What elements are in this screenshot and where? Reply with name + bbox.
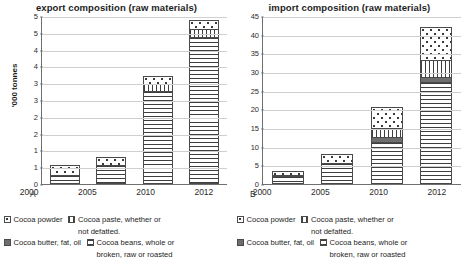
bar-segment-powder-2010 bbox=[144, 77, 172, 84]
legend-swatch-paste-icon bbox=[301, 216, 308, 223]
stacked-bar-2010 bbox=[371, 107, 403, 184]
x-tick-label-2005: 2005 bbox=[65, 187, 109, 201]
stacked-bar-2005 bbox=[321, 154, 353, 184]
legend-swatch-beans-icon bbox=[320, 239, 327, 246]
legend-swatch-powder-icon bbox=[4, 216, 11, 223]
y-tick-label: 4 bbox=[34, 47, 38, 55]
gridline bbox=[42, 151, 227, 152]
legend-row: Cocoa butter, fat, oilCocoa beans, whole… bbox=[233, 237, 466, 260]
y-tick-label: 5 bbox=[255, 163, 259, 171]
bar-segment-powder-2005 bbox=[322, 155, 352, 163]
legend-item-powder-export: Cocoa powder bbox=[4, 214, 62, 226]
gridline bbox=[42, 118, 227, 119]
legend-swatch-butter-icon bbox=[4, 239, 11, 246]
y-axis-ticks-export: 01122334455 bbox=[16, 17, 40, 185]
legend-item-paste-export: Cocoa paste, whether or not defatted. bbox=[68, 214, 170, 237]
gridline bbox=[42, 17, 227, 18]
y-tick-label: 5 bbox=[34, 13, 38, 21]
bar-segment-paste-2012 bbox=[421, 60, 451, 77]
legend-item-beans-import: Cocoa beans, whole or broken, raw or roa… bbox=[320, 237, 422, 260]
bar-segment-powder-2005 bbox=[97, 158, 125, 165]
gridline bbox=[263, 148, 461, 149]
gridline bbox=[42, 84, 227, 85]
plot-frame-import bbox=[262, 17, 461, 185]
y-tick-label: 1 bbox=[34, 164, 38, 172]
legend-swatch-butter-icon bbox=[237, 239, 244, 246]
bar-column-2012 bbox=[420, 17, 452, 184]
gridline bbox=[263, 73, 461, 74]
legend-label: Cocoa powder bbox=[14, 214, 63, 226]
gridline bbox=[263, 17, 461, 18]
legend-item-paste-import: Cocoa paste, whether or not defatted. bbox=[301, 214, 403, 237]
x-tick-label-2005: 2005 bbox=[298, 187, 342, 201]
panel-letter-b: B bbox=[250, 189, 256, 199]
legend-item-powder-import: Cocoa powder bbox=[237, 214, 295, 226]
legend-label: Cocoa beans, whole or broken, raw or roa… bbox=[97, 237, 189, 260]
x-tick-label-2010: 2010 bbox=[124, 187, 168, 201]
legend-label: Cocoa butter, fat, oil bbox=[247, 237, 315, 249]
y-tick-label: 3 bbox=[34, 80, 38, 88]
legend-label: Cocoa beans, whole or broken, raw or roa… bbox=[330, 237, 422, 260]
legend-label: Cocoa paste, whether or not defatted. bbox=[311, 214, 403, 237]
legend-label: Cocoa powder bbox=[247, 214, 296, 226]
legend-swatch-paste-icon bbox=[68, 216, 75, 223]
gridline bbox=[42, 135, 227, 136]
y-tick-label: 25 bbox=[251, 88, 259, 96]
y-tick-label: 5 bbox=[34, 30, 38, 38]
figure-cocoa-trade-composition: export composition (raw materials) '000 … bbox=[0, 0, 466, 265]
gridline bbox=[263, 54, 461, 55]
legend-item-butter-export: Cocoa butter, fat, oil bbox=[4, 237, 81, 249]
y-tick-label: 10 bbox=[251, 144, 259, 152]
legend-row: Cocoa butter, fat, oilCocoa beans, whole… bbox=[0, 237, 233, 260]
gridline bbox=[42, 51, 227, 52]
gridline bbox=[42, 101, 227, 102]
x-tick-label-2012: 2012 bbox=[415, 187, 459, 201]
y-tick-label: 4 bbox=[34, 64, 38, 72]
gridline bbox=[263, 166, 461, 167]
legend-swatch-beans-icon bbox=[87, 239, 94, 246]
y-axis-ticks-import: 051015202530354045 bbox=[237, 17, 261, 185]
bar-column-2005 bbox=[321, 17, 353, 184]
bar-segment-beans-2000 bbox=[273, 176, 303, 183]
y-tick-label: 45 bbox=[251, 13, 259, 21]
stacked-bar-2012 bbox=[420, 27, 452, 184]
stacked-bar-2000 bbox=[272, 171, 304, 184]
x-axis-labels-import: 2000200520102012 bbox=[233, 187, 466, 201]
y-tick-label: 2 bbox=[34, 114, 38, 122]
bar-group-import bbox=[263, 17, 461, 184]
bar-column-2000 bbox=[272, 17, 304, 184]
x-tick-label-2010: 2010 bbox=[357, 187, 401, 201]
y-tick-label: 15 bbox=[251, 125, 259, 133]
chart-title-import: import composition (raw materials) bbox=[233, 2, 466, 13]
chart-panel-export: export composition (raw materials) '000 … bbox=[0, 0, 233, 265]
legend-row: Cocoa powderCocoa paste, whether or not … bbox=[233, 214, 466, 237]
legend-swatch-powder-icon bbox=[237, 216, 244, 223]
plot-area-export: '000 tonnes 01122334455 2000200520102012… bbox=[0, 17, 233, 209]
stacked-bar-2005 bbox=[96, 157, 126, 184]
bar-segment-beans-2012 bbox=[190, 37, 218, 183]
bar-segment-powder-2012 bbox=[190, 21, 218, 29]
gridline bbox=[42, 168, 227, 169]
bar-segment-beans-2012 bbox=[421, 82, 451, 183]
y-tick-label: 1 bbox=[34, 148, 38, 156]
gridline bbox=[42, 67, 227, 68]
gridline bbox=[263, 110, 461, 111]
x-tick-label-2012: 2012 bbox=[182, 187, 226, 201]
chart-panel-import: import composition (raw materials) 05101… bbox=[233, 0, 466, 265]
bar-column-2010 bbox=[371, 17, 403, 184]
y-tick-label: 2 bbox=[34, 131, 38, 139]
y-tick-label: 40 bbox=[251, 32, 259, 40]
y-tick-label: 35 bbox=[251, 51, 259, 59]
x-tick-label-2000: 2000 bbox=[240, 187, 284, 201]
gridline bbox=[263, 36, 461, 37]
stacked-bar-2012 bbox=[189, 20, 219, 184]
y-tick-label: 3 bbox=[34, 97, 38, 105]
bar-segment-beans-2000 bbox=[51, 175, 79, 183]
gridline bbox=[263, 92, 461, 93]
legend-item-beans-export: Cocoa beans, whole or broken, raw or roa… bbox=[87, 237, 189, 260]
gridline bbox=[42, 34, 227, 35]
y-tick-label: 20 bbox=[251, 107, 259, 115]
legend-export: Cocoa powderCocoa paste, whether or not … bbox=[0, 214, 233, 260]
legend-label: Cocoa paste, whether or not defatted. bbox=[78, 214, 170, 237]
legend-row: Cocoa powderCocoa paste, whether or not … bbox=[0, 214, 233, 237]
